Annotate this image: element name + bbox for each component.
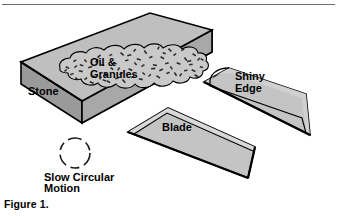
motion-label-line2: Motion	[44, 182, 80, 194]
figure-root: Stone Oil & Granules Shiny Edge Blade Sl…	[0, 0, 337, 216]
figure-caption: Figure 1.	[4, 198, 49, 210]
oil-label-line1: Oil &	[90, 56, 116, 68]
stone-label: Stone	[28, 85, 59, 97]
blade-label: Blade	[162, 121, 192, 133]
motion-dashed-circle	[60, 138, 90, 168]
slow-circular-motion-indicator	[60, 138, 90, 168]
shiny-edge-label-line1: Shiny	[235, 70, 266, 82]
blade	[128, 108, 255, 178]
figure-illustration: Stone Oil & Granules Shiny Edge Blade Sl…	[0, 0, 337, 216]
oil-label-line2: Granules	[90, 68, 138, 80]
top-divider-rule	[2, 4, 335, 5]
shiny-edge-label-line2: Edge	[235, 82, 262, 94]
